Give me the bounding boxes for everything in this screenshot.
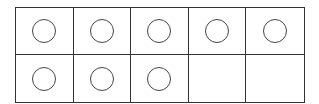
- ten-frame-cell: [131, 55, 189, 102]
- counter-circle-icon: [90, 67, 114, 91]
- ten-frame-cell: [189, 8, 247, 55]
- ten-frame-cell: [246, 8, 304, 55]
- ten-frame-cell: [74, 8, 132, 55]
- ten-frame-cell: [16, 55, 74, 102]
- counter-circle-icon: [90, 19, 114, 43]
- ten-frame-cell: [189, 55, 247, 102]
- counter-circle-icon: [263, 19, 287, 43]
- counter-circle-icon: [32, 67, 56, 91]
- counter-circle-icon: [205, 19, 229, 43]
- ten-frame-cell: [16, 8, 74, 55]
- ten-frame-cell: [131, 8, 189, 55]
- ten-frame: [15, 7, 305, 103]
- ten-frame-cell: [74, 55, 132, 102]
- counter-circle-icon: [32, 19, 56, 43]
- counter-circle-icon: [147, 19, 171, 43]
- ten-frame-cell: [246, 55, 304, 102]
- counter-circle-icon: [147, 67, 171, 91]
